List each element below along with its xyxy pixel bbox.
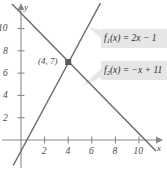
function-graph-figure: 2 4 6 8 10 2 4 6 8 10 y x (4, 7) f1(x) =… — [0, 0, 167, 170]
y-tick-label-4: 4 — [3, 91, 8, 101]
callout-f2-tail — [82, 66, 104, 86]
callout-f2-text: f2(x) = −x + 11 — [104, 66, 162, 76]
x-axis-label: x — [157, 144, 161, 153]
line-f1 — [13, 3, 100, 166]
y-tick-label-8: 8 — [3, 47, 8, 57]
callout-f1-text: f1(x) = 2x − 1 — [104, 34, 156, 44]
intersection-point-label: (4, 7) — [38, 57, 58, 66]
x-tick-label-4: 4 — [65, 147, 70, 157]
x-tick-label-2: 2 — [42, 147, 47, 157]
y-tick-label-2: 2 — [3, 114, 8, 124]
y-tick-label-6: 6 — [3, 69, 8, 79]
callout-f1-subscript: 1 — [107, 37, 110, 44]
callout-f1-body: (x) = 2x − 1 — [110, 33, 157, 43]
callout-f2-body: (x) = −x + 11 — [110, 65, 162, 75]
x-tick-label-8: 8 — [113, 147, 118, 157]
x-tick-label-6: 6 — [89, 147, 94, 157]
y-tick-label-10: 10 — [0, 24, 8, 34]
x-tick-label-10: 10 — [134, 147, 144, 157]
y-axis-label: y — [24, 3, 28, 12]
plot-canvas — [0, 0, 167, 170]
callout-f2-subscript: 2 — [107, 69, 110, 76]
intersection-marker — [65, 59, 71, 65]
